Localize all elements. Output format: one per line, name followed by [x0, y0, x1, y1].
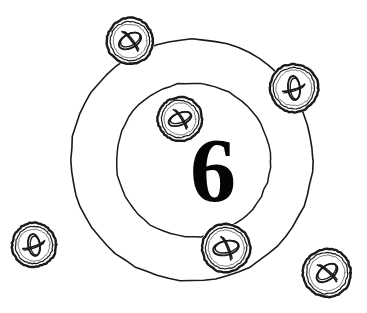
- token-right[interactable]: [269, 63, 320, 114]
- token-bottom-right[interactable]: [302, 248, 353, 299]
- token-top-left[interactable]: [106, 17, 155, 66]
- sketch-scene: 6: [0, 0, 367, 313]
- tokens-group: [11, 17, 353, 299]
- token-bottom-center[interactable]: [201, 223, 252, 274]
- token-far-left[interactable]: [11, 222, 58, 269]
- token-inner-top[interactable]: [157, 96, 204, 143]
- drawing-canvas: 6: [0, 0, 367, 313]
